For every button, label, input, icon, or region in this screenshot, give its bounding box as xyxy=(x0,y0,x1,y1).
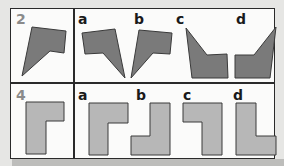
shape-4c[interactable] xyxy=(183,103,222,155)
shape-4b[interactable] xyxy=(131,103,170,155)
shape-4a[interactable] xyxy=(89,103,128,155)
shape-2c[interactable] xyxy=(186,28,228,78)
shape-2b[interactable] xyxy=(131,30,172,78)
shape-2-reference xyxy=(22,27,66,76)
shape-2a[interactable] xyxy=(82,29,125,78)
shape-4d[interactable] xyxy=(236,103,276,155)
shape-4-reference xyxy=(26,102,64,154)
shapes-canvas xyxy=(0,0,284,166)
shape-2d[interactable] xyxy=(235,27,276,78)
